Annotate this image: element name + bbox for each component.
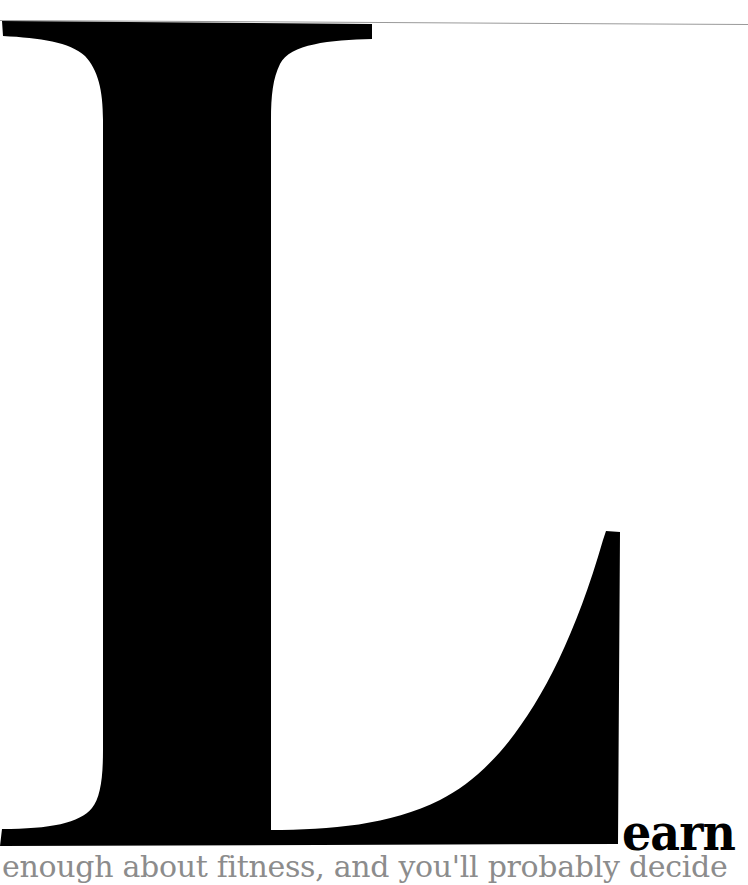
body-text-line: enough about fitness, and you'll probabl… <box>2 849 727 885</box>
